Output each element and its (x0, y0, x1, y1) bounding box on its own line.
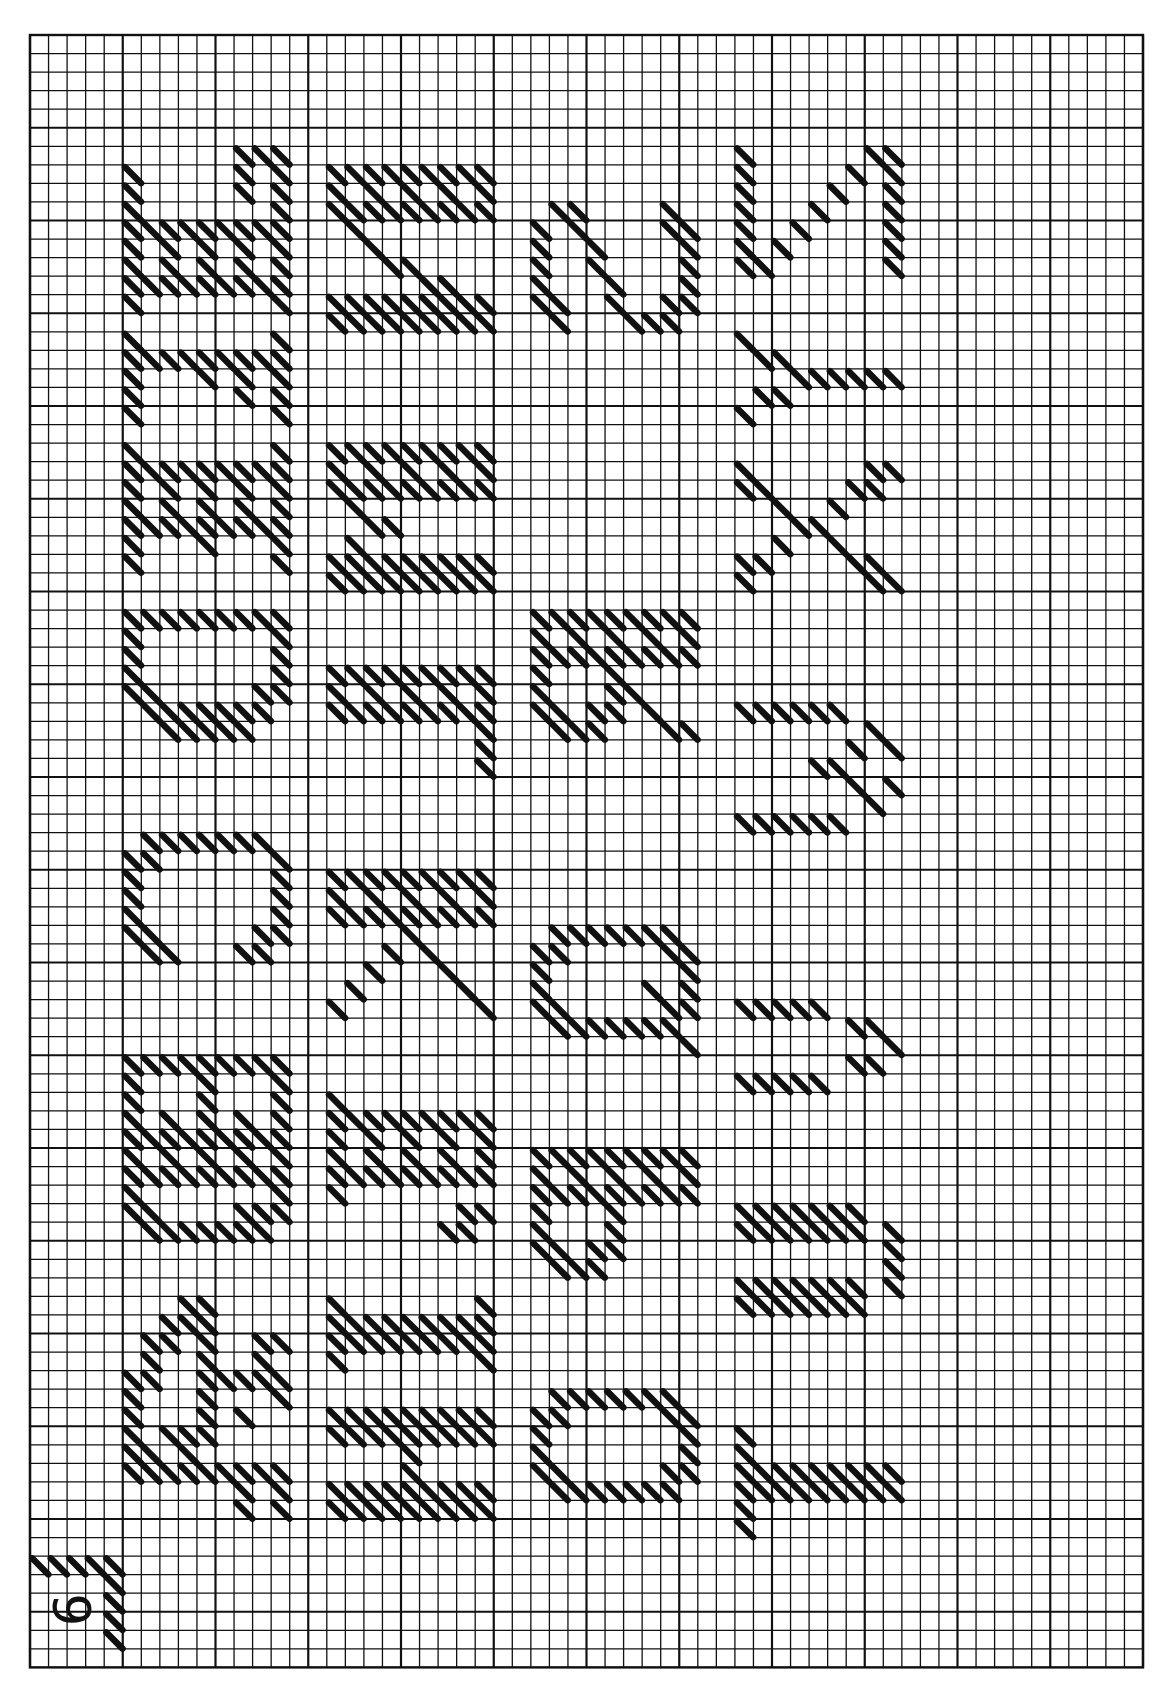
letter-k (329, 872, 493, 1018)
letter-v (737, 1002, 901, 1092)
letter-r (533, 612, 697, 739)
chart-canvas: 9 (0, 0, 1173, 1689)
letter-w (737, 705, 901, 832)
letter-g (125, 149, 289, 313)
letter-q (533, 928, 697, 1055)
letter-z (737, 149, 901, 276)
letter-p (533, 1150, 697, 1277)
letter-e (125, 445, 289, 572)
letter-d (125, 612, 289, 739)
letter-f (125, 334, 289, 424)
letter-m (329, 445, 493, 591)
needlepoint-alphabet-chart: 9 (0, 0, 1173, 1689)
letter-a (125, 1299, 289, 1519)
page-number-box: 9 (32, 1558, 122, 1648)
letter-c (125, 835, 289, 962)
letter-stitches (125, 149, 902, 1538)
letter-x (737, 464, 901, 591)
page-number: 9 (41, 1593, 101, 1626)
letter-j (329, 1095, 493, 1241)
letter-n (329, 167, 493, 331)
letter-y (737, 334, 901, 424)
